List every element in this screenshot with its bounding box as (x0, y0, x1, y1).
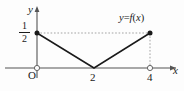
curve-equation-label: y=f(x) (119, 13, 144, 24)
origin-label: O (28, 70, 36, 81)
equation-paren-close: ) (141, 12, 145, 23)
fraction-numerator: 1 (16, 21, 33, 32)
math-graph-figure: y x O 2 4 1 2 y=f(x) (0, 0, 184, 91)
x-tick-label-4: 4 (147, 72, 153, 83)
y-axis-label: y (28, 4, 33, 15)
function-curve (37, 33, 150, 68)
filled-point-right (148, 31, 153, 36)
x-axis-label: x (173, 65, 178, 76)
fraction-denominator: 2 (16, 34, 33, 45)
y-tick-label-one-half: 1 2 (16, 21, 33, 45)
filled-point-left (35, 31, 40, 36)
y-axis-arrowhead (35, 6, 40, 12)
open-point-x4 (147, 65, 152, 70)
x-tick-label-2: 2 (90, 72, 96, 83)
